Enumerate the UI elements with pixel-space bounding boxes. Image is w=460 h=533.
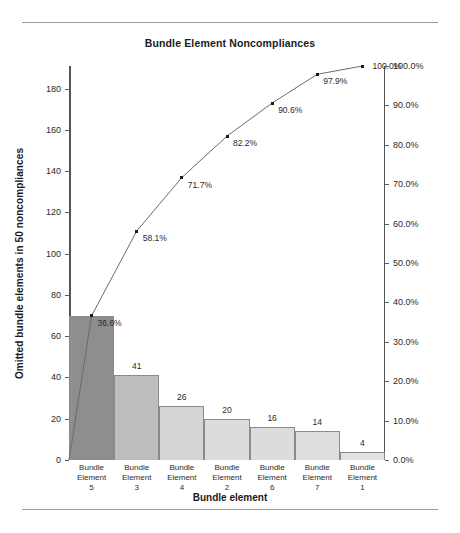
category-name: Bundle Element	[167, 463, 196, 482]
right-axis-tick	[385, 105, 389, 106]
category-name: Bundle Element	[122, 463, 151, 482]
right-axis-tick-label: 70.0%	[393, 180, 419, 189]
cumulative-marker[interactable]	[226, 135, 229, 138]
x-axis-category-label: Bundle Element1	[340, 463, 385, 493]
right-axis-tick-label: 60.0%	[393, 219, 419, 228]
left-axis-tick-label: 160	[46, 125, 61, 134]
cumulative-percent-label: 97.9%	[323, 76, 347, 86]
right-axis-tick-label: 40.0%	[393, 298, 419, 307]
right-axis-tick-label: 80.0%	[393, 140, 419, 149]
right-axis-tick	[385, 302, 389, 303]
top-divider	[22, 22, 438, 23]
x-axis-category-label: Bundle Element5	[69, 463, 114, 493]
left-axis-tick	[65, 460, 69, 461]
category-name: Bundle Element	[348, 463, 377, 482]
cumulative-percent-label: 90.6%	[278, 105, 302, 115]
right-axis-tick	[385, 381, 389, 382]
category-name: Bundle Element	[257, 463, 286, 482]
cumulative-percent-label: 36.6%	[98, 318, 122, 328]
chart-title: Bundle Element Noncompliances	[0, 37, 460, 49]
category-name: Bundle Element	[212, 463, 241, 482]
right-axis-tick	[385, 224, 389, 225]
cumulative-percent-label: 71.7%	[188, 180, 212, 190]
left-axis-tick-label: 60	[51, 332, 61, 341]
right-axis-tick-label: 90.0%	[393, 101, 419, 110]
right-axis-tick-label: 0.0%	[393, 456, 414, 465]
right-axis-tick	[385, 460, 389, 461]
right-axis-tick	[385, 342, 389, 343]
cumulative-marker[interactable]	[135, 230, 138, 233]
right-axis-tick	[385, 184, 389, 185]
x-axis-category-label: Bundle Element3	[114, 463, 159, 493]
left-axis-tick-label: 80	[51, 290, 61, 299]
cumulative-marker[interactable]	[361, 65, 364, 68]
x-axis-category-label: Bundle Element7	[295, 463, 340, 493]
left-axis-tick-label: 20	[51, 414, 61, 423]
left-axis-tick-label: 140	[46, 167, 61, 176]
left-axis-tick-label: 0	[56, 456, 61, 465]
left-axis-tick-label: 180	[46, 84, 61, 93]
y-axis-title-text: Omitted bundle elements in 50 noncomplia…	[15, 147, 26, 378]
x-axis-category-label: Bundle Element6	[250, 463, 295, 493]
right-axis-tick	[385, 145, 389, 146]
category-name: Bundle Element	[303, 463, 332, 482]
x-axis-category-label: Bundle Element4	[159, 463, 204, 493]
right-axis-tick-label: 50.0%	[393, 259, 419, 268]
cumulative-percent-label: 58.1%	[143, 233, 167, 243]
right-axis-tick	[385, 421, 389, 422]
chart-page: Bundle Element Noncompliances Omitted bu…	[0, 0, 460, 533]
cumulative-marker[interactable]	[271, 102, 274, 105]
plot-area: 020406080100120140160180 0.0%10.0%20.0%3…	[69, 66, 385, 460]
x-axis-title: Bundle element	[0, 492, 460, 503]
left-axis-tick-label: 100	[46, 249, 61, 258]
right-axis-tick-label: 10.0%	[393, 416, 419, 425]
x-axis-category-label: Bundle Element2	[204, 463, 249, 493]
category-name: Bundle Element	[77, 463, 106, 482]
cumulative-percent-label: 100.0%	[372, 61, 401, 71]
left-axis-tick-label: 120	[46, 208, 61, 217]
cumulative-line	[69, 66, 385, 460]
bottom-divider	[22, 509, 438, 510]
right-axis-tick-label: 30.0%	[393, 337, 419, 346]
cumulative-marker[interactable]	[90, 314, 93, 317]
cumulative-percent-label: 82.2%	[233, 138, 257, 148]
right-axis-tick-label: 20.0%	[393, 377, 419, 386]
cumulative-marker[interactable]	[180, 176, 183, 179]
y-axis-title: Omitted bundle elements in 50 noncomplia…	[13, 66, 27, 460]
x-axis-categories: Bundle Element5Bundle Element3Bundle Ele…	[69, 463, 385, 493]
cumulative-marker[interactable]	[316, 73, 319, 76]
right-axis-tick	[385, 263, 389, 264]
cumulative-polyline	[69, 66, 362, 460]
left-axis-tick-label: 40	[51, 373, 61, 382]
